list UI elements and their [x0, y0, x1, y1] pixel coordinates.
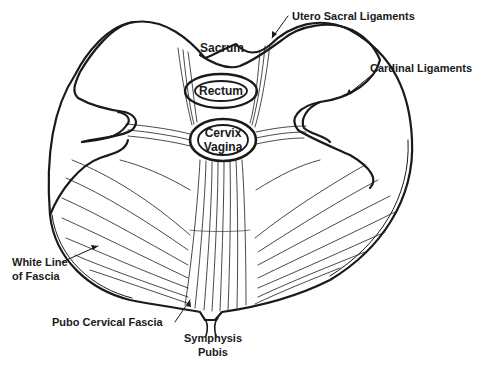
white-line-label-1: White Line: [12, 256, 68, 268]
cervix-label: Cervix: [205, 126, 242, 140]
utero-sacral-label: Utero Sacral Ligaments: [292, 10, 415, 22]
sacrum-label: Sacrum: [200, 41, 244, 55]
pubo-cervical-label: Pubo Cervical Fascia: [52, 316, 164, 328]
white-line-label-2: of Fascia: [12, 270, 61, 282]
rectum-label: Rectum: [199, 84, 243, 98]
symphysis-label-2: Pubis: [198, 346, 228, 358]
pelvic-floor-diagram: Sacrum Rectum Cervix Vagina Utero Sacral…: [0, 0, 485, 365]
cardinal-label: Cardinal Ligaments: [370, 62, 472, 74]
pubo-cervical-fascia: [185, 160, 250, 311]
diagram-svg: Sacrum Rectum Cervix Vagina Utero Sacral…: [0, 0, 485, 365]
levator-fibers: [62, 160, 395, 304]
vagina-label: Vagina: [204, 140, 243, 154]
symphysis-label-1: Symphysis: [184, 332, 242, 344]
